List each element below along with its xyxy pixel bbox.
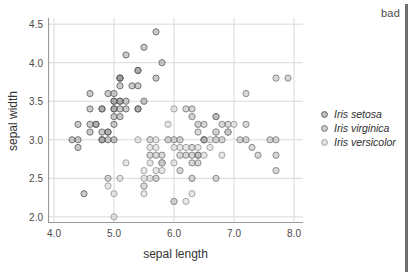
y-axis-tick-label: 3.5	[29, 96, 43, 107]
data-point	[267, 137, 273, 143]
data-point	[147, 144, 153, 150]
data-point	[231, 121, 237, 127]
data-point	[153, 144, 159, 150]
data-point	[135, 137, 141, 143]
x-axis-tick-label: 5.0	[107, 228, 121, 239]
data-point	[111, 114, 117, 120]
data-point	[117, 175, 123, 181]
data-point	[129, 83, 135, 89]
scatter-plot-svg	[48, 18, 303, 223]
x-axis-tick-label: 8.0	[287, 228, 301, 239]
series-iris-setosa	[69, 29, 165, 197]
data-point	[141, 167, 147, 173]
data-point	[153, 175, 159, 181]
data-point	[183, 152, 189, 158]
data-point	[117, 106, 123, 112]
data-point	[111, 106, 117, 112]
data-point	[189, 160, 195, 166]
data-point	[123, 106, 129, 112]
data-point	[189, 144, 195, 150]
data-point	[141, 175, 147, 181]
data-point	[207, 144, 213, 150]
data-point	[243, 121, 249, 127]
data-point	[183, 198, 189, 204]
data-point	[201, 121, 207, 127]
chart-legend: Iris setosaIris virginicaIris versicolor	[318, 107, 408, 149]
legend-marker-svg	[320, 124, 329, 133]
y-axis-tick-label: 2.5	[29, 173, 43, 184]
scatter-plot-area: 2.02.53.03.54.04.54.05.06.07.08.0	[48, 18, 303, 223]
data-point	[105, 137, 111, 143]
data-point	[159, 167, 165, 173]
data-point	[255, 152, 261, 158]
data-point	[75, 121, 81, 127]
data-point	[225, 129, 231, 135]
data-point	[117, 83, 123, 89]
data-point	[111, 191, 117, 197]
legend-marker-svg	[320, 110, 329, 119]
data-point	[177, 137, 183, 143]
data-point	[105, 183, 111, 189]
data-point	[117, 114, 123, 120]
data-point	[219, 121, 225, 127]
data-point	[75, 144, 81, 150]
data-point	[99, 137, 105, 143]
data-point	[105, 90, 111, 96]
data-point	[177, 144, 183, 150]
data-point	[243, 90, 249, 96]
data-point	[153, 167, 159, 173]
data-point	[147, 152, 153, 158]
legend-item[interactable]: Iris setosa	[318, 107, 408, 121]
data-point	[141, 191, 147, 197]
data-point	[195, 144, 201, 150]
legend-label: Iris versicolor	[334, 136, 396, 148]
legend-item[interactable]: Iris versicolor	[318, 135, 408, 149]
y-axis-tick-label: 4.0	[29, 57, 43, 68]
data-point	[285, 75, 291, 81]
data-point	[195, 129, 201, 135]
legend-label: Iris virginica	[334, 122, 389, 134]
data-point	[213, 137, 219, 143]
data-point	[135, 106, 141, 112]
data-point	[147, 160, 153, 166]
data-point	[183, 144, 189, 150]
data-point	[87, 129, 93, 135]
data-point	[153, 137, 159, 143]
data-point	[75, 137, 81, 143]
bad-annotation-label: bad	[381, 7, 400, 19]
x-axis-title: sepal length	[48, 247, 303, 261]
data-point	[171, 160, 177, 166]
data-point	[93, 121, 99, 127]
data-point	[147, 137, 153, 143]
legend-marker-icon	[318, 110, 330, 119]
data-point	[171, 137, 177, 143]
data-point	[135, 67, 141, 73]
data-point	[171, 106, 177, 112]
y-axis-tick-label: 4.5	[29, 19, 43, 30]
y-axis-title-text: sepal width	[6, 90, 20, 150]
chart-figure: bad 2.02.53.03.54.04.54.05.06.07.08.0 se…	[0, 0, 416, 277]
data-point	[111, 90, 117, 96]
data-point	[141, 44, 147, 50]
data-point	[171, 144, 177, 150]
data-point	[81, 191, 87, 197]
legend-item[interactable]: Iris virginica	[318, 121, 408, 135]
y-axis-tick-label: 3.0	[29, 134, 43, 145]
data-point	[213, 129, 219, 135]
x-axis-tick-label: 4.0	[47, 228, 61, 239]
legend-marker-circle	[321, 111, 327, 117]
y-axis-title: sepal width	[6, 18, 20, 223]
data-point	[273, 167, 279, 173]
data-point	[99, 129, 105, 135]
data-point	[195, 160, 201, 166]
data-point	[273, 75, 279, 81]
data-point	[243, 137, 249, 143]
data-point	[207, 137, 213, 143]
legend-label: Iris setosa	[334, 108, 382, 120]
data-point	[99, 106, 105, 112]
data-point	[141, 98, 147, 104]
data-point	[87, 121, 93, 127]
data-point	[105, 129, 111, 135]
data-point	[105, 175, 111, 181]
data-point	[153, 75, 159, 81]
